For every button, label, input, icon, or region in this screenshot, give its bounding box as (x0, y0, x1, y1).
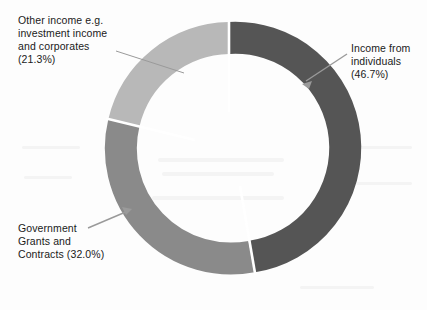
slice-label-other-income-line-3: and corporates (18, 40, 107, 53)
slice-government-grants-and-contracts (121, 123, 252, 259)
slice-label-government-grants-value: Contracts (32.0%) (18, 248, 104, 261)
slice-label-other-income-line-2: investment income (18, 27, 107, 40)
slice-label-income-from-individuals-value: (46.7%) (351, 68, 410, 81)
slice-label-other-income-line-1: Other income e.g. (18, 14, 107, 27)
slice-label-other-income: Other income e.g. investment income and … (18, 14, 107, 66)
slice-label-income-from-individuals-line-1: Income from (351, 42, 410, 55)
slice-label-income-from-individuals: Income from individuals (46.7%) (351, 42, 410, 81)
slice-label-government-grants-line-2: Grants and (18, 235, 104, 248)
slice-label-other-income-value: (21.3%) (18, 53, 107, 66)
slice-label-government-grants: Government Grants and Contracts (32.0%) (18, 222, 104, 261)
slice-label-government-grants-line-1: Government (18, 222, 104, 235)
slice-other-income (124, 38, 229, 123)
slice-label-income-from-individuals-line-2: individuals (351, 55, 410, 68)
donut-chart-figure: Other income e.g. investment income and … (0, 0, 427, 310)
